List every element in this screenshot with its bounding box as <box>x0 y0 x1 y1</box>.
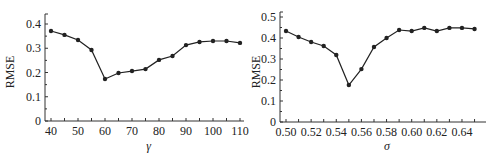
x-tick-label: 0.64 <box>451 125 472 139</box>
y-tick-label: 0.1 <box>261 94 276 108</box>
data-point-marker <box>197 40 201 44</box>
data-point-marker <box>397 28 401 32</box>
data-point-marker <box>103 77 107 81</box>
x-tick-label: 0.58 <box>376 125 397 139</box>
data-point-marker <box>143 67 147 71</box>
data-point-marker <box>62 33 66 37</box>
data-point-marker <box>334 53 338 57</box>
y-tick-label: 0.1 <box>26 90 41 104</box>
data-point-marker <box>309 40 313 44</box>
x-tick-label: 0.62 <box>426 125 447 139</box>
data-point-marker <box>372 45 376 49</box>
x-tick-label: 0.54 <box>326 125 347 139</box>
data-line <box>286 28 475 85</box>
x-tick-label: 0.50 <box>276 125 297 139</box>
data-point-marker <box>384 36 388 40</box>
x-tick-label: 0.52 <box>301 125 322 139</box>
y-tick-label: 0.3 <box>261 52 276 66</box>
data-point-marker <box>49 29 53 33</box>
x-tick-label: 50 <box>72 124 84 138</box>
x-tick-label: 0.56 <box>351 125 372 139</box>
y-tick-label: 0.2 <box>261 73 276 87</box>
data-point-marker <box>435 29 439 33</box>
data-point-marker <box>296 35 300 39</box>
data-point-marker <box>116 71 120 75</box>
data-point-marker <box>322 44 326 48</box>
data-point-marker <box>238 41 242 45</box>
data-point-marker <box>347 83 351 87</box>
data-point-marker <box>284 29 288 33</box>
data-point-marker <box>157 58 161 62</box>
data-line <box>51 31 240 79</box>
data-point-marker <box>76 38 80 42</box>
rmse-vs-sigma-chart: 00.10.20.30.40.50.500.520.540.560.580.60… <box>250 0 494 156</box>
y-tick-label: 0.4 <box>26 17 41 31</box>
data-point-marker <box>130 69 134 73</box>
x-tick-label: 60 <box>99 124 111 138</box>
x-tick-label: 100 <box>204 124 222 138</box>
y-tick-label: 0.2 <box>26 66 41 80</box>
rmse-vs-gamma-chart: 00.10.20.30.4405060708090100110RMSEγ <box>0 0 250 156</box>
x-tick-label: 70 <box>126 124 138 138</box>
x-tick-label: 0.60 <box>401 125 422 139</box>
y-axis-title: RMSE <box>250 56 263 89</box>
y-axis-title: RMSE <box>3 56 17 89</box>
y-tick-label: 0.3 <box>26 41 41 55</box>
x-tick-label: 110 <box>231 124 249 138</box>
y-tick-label: 0 <box>35 114 41 128</box>
chart-canvas: 00.10.20.30.4405060708090100110RMSEγ <box>0 0 250 156</box>
data-point-marker <box>472 27 476 31</box>
data-point-marker <box>460 26 464 30</box>
data-point-marker <box>224 39 228 43</box>
x-tick-label: 40 <box>45 124 57 138</box>
data-point-marker <box>410 29 414 33</box>
x-tick-label: 80 <box>153 124 165 138</box>
x-axis-title: σ <box>384 139 391 153</box>
data-point-marker <box>184 43 188 47</box>
chart-canvas: 00.10.20.30.40.50.500.520.540.560.580.60… <box>250 0 494 156</box>
data-point-marker <box>447 26 451 30</box>
x-tick-label: 90 <box>180 124 192 138</box>
data-point-marker <box>422 26 426 30</box>
data-point-marker <box>359 67 363 71</box>
data-point-marker <box>170 54 174 58</box>
y-tick-label: 0.5 <box>261 10 276 24</box>
data-point-marker <box>211 39 215 43</box>
data-point-marker <box>89 48 93 52</box>
y-tick-label: 0.4 <box>261 31 276 45</box>
x-axis-title: γ <box>146 139 151 153</box>
